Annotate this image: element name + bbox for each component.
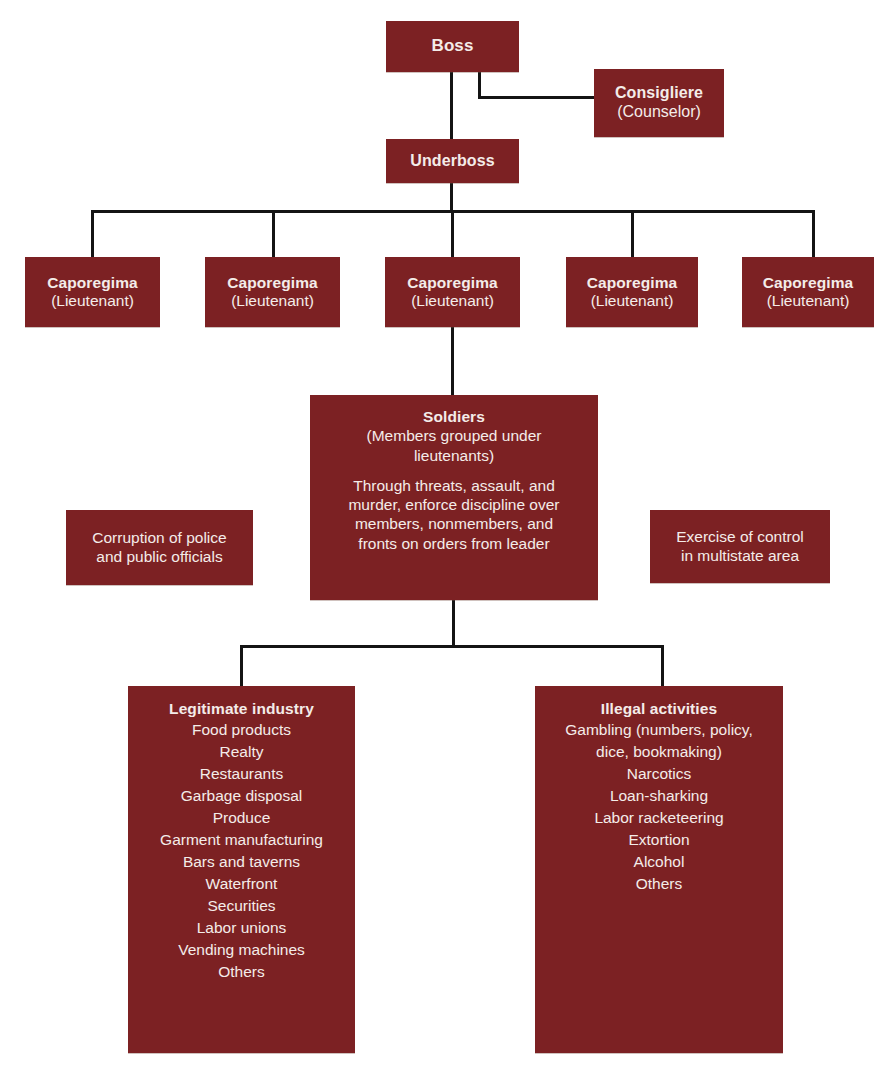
- list-item: Vending machines: [178, 939, 305, 961]
- node-consigliere[interactable]: Consigliere (Counselor): [594, 69, 724, 137]
- list-item: Food products: [192, 719, 291, 741]
- node-consigliere-subtitle: (Counselor): [617, 103, 701, 122]
- connector-drop-caporegima-3: [451, 210, 454, 259]
- connector-underboss-bus: [450, 183, 453, 212]
- node-caporegima-3[interactable]: Caporegima (Lieutenant): [385, 257, 520, 327]
- connector-bottom-bus: [240, 645, 664, 648]
- list-item: Garment manufacturing: [160, 829, 323, 851]
- node-boss-title: Boss: [432, 36, 474, 56]
- node-caporegima-1-subtitle: (Lieutenant): [51, 292, 134, 310]
- node-caporegima-5[interactable]: Caporegima (Lieutenant): [742, 257, 874, 327]
- node-soldiers-subtitle-line-2: lieutenants): [414, 447, 494, 465]
- list-item: Garbage disposal: [181, 785, 303, 807]
- list-item: Gambling (numbers, policy,: [565, 719, 753, 741]
- list-item: Alcohol: [634, 851, 685, 873]
- node-illegal-activities[interactable]: Illegal activities Gambling (numbers, po…: [535, 686, 783, 1053]
- node-caporegima-1[interactable]: Caporegima (Lieutenant): [25, 257, 160, 327]
- node-caporegima-4-title: Caporegima: [587, 274, 678, 292]
- node-corruption-note[interactable]: Corruption of police and public official…: [66, 510, 253, 585]
- node-corruption-note-line-1: Corruption of police: [92, 529, 226, 547]
- list-item: Others: [636, 873, 683, 895]
- connector-boss-underboss: [450, 72, 453, 142]
- list-item: Bars and taverns: [183, 851, 300, 873]
- connector-boss-consigliere-stub: [478, 72, 481, 98]
- node-caporegima-3-subtitle: (Lieutenant): [411, 292, 494, 310]
- connector-drop-caporegima-2: [272, 210, 275, 259]
- list-item: Restaurants: [200, 763, 284, 785]
- connector-boss-consigliere: [478, 96, 596, 99]
- node-caporegima-4-subtitle: (Lieutenant): [591, 292, 674, 310]
- organizational-chart: Boss Consigliere (Counselor) Underboss C…: [0, 0, 888, 1083]
- node-illegal-activities-title: Illegal activities: [601, 700, 717, 718]
- node-caporegima-5-title: Caporegima: [763, 274, 854, 292]
- connector-drop-caporegima-1: [91, 210, 94, 259]
- node-soldiers-paragraph-line-1: Through threats, assault, and: [353, 477, 555, 495]
- list-item: Realty: [220, 741, 264, 763]
- list-item: Waterfront: [206, 873, 278, 895]
- node-control-note-line-2: in multistate area: [681, 547, 799, 565]
- list-item: Securities: [207, 895, 275, 917]
- node-soldiers-paragraph-line-2: murder, enforce discipline over: [348, 496, 559, 514]
- node-legitimate-industry-title: Legitimate industry: [169, 700, 314, 718]
- connector-drop-legitimate: [240, 645, 243, 688]
- list-item: Produce: [213, 807, 271, 829]
- list-item: Extortion: [628, 829, 689, 851]
- list-item: Loan-sharking: [610, 785, 708, 807]
- node-caporegima-3-title: Caporegima: [407, 274, 498, 292]
- connector-drop-illegal: [661, 645, 664, 688]
- node-caporegima-4[interactable]: Caporegima (Lieutenant): [566, 257, 698, 327]
- node-caporegima-2-title: Caporegima: [227, 274, 318, 292]
- node-underboss-title: Underboss: [410, 152, 494, 171]
- node-corruption-note-line-2: and public officials: [96, 548, 222, 566]
- node-caporegima-5-subtitle: (Lieutenant): [767, 292, 850, 310]
- node-control-note-line-1: Exercise of control: [676, 528, 804, 546]
- node-caporegima-2-subtitle: (Lieutenant): [231, 292, 314, 310]
- connector-soldiers-bus: [452, 600, 455, 648]
- list-item: Labor racketeering: [594, 807, 723, 829]
- list-item: Narcotics: [627, 763, 692, 785]
- connector-drop-caporegima-4: [631, 210, 634, 259]
- connector-caporegima-soldiers: [451, 327, 454, 397]
- list-item: Labor unions: [197, 917, 287, 939]
- node-soldiers-subtitle-line-1: (Members grouped under: [367, 427, 542, 445]
- node-caporegima-1-title: Caporegima: [47, 274, 138, 292]
- node-soldiers[interactable]: Soldiers (Members grouped under lieutena…: [310, 395, 598, 600]
- node-soldiers-paragraph-line-4: fronts on orders from leader: [358, 535, 549, 553]
- node-soldiers-paragraph-line-3: members, nonmembers, and: [355, 515, 553, 533]
- node-boss[interactable]: Boss: [386, 21, 519, 72]
- node-underboss[interactable]: Underboss: [386, 139, 519, 183]
- node-legitimate-industry[interactable]: Legitimate industry Food products Realty…: [128, 686, 355, 1053]
- node-caporegima-2[interactable]: Caporegima (Lieutenant): [205, 257, 340, 327]
- node-soldiers-title: Soldiers: [423, 408, 485, 426]
- connector-drop-caporegima-5: [812, 210, 815, 259]
- node-control-note[interactable]: Exercise of control in multistate area: [650, 510, 830, 583]
- node-consigliere-title: Consigliere: [615, 84, 703, 103]
- list-item: Others: [218, 961, 265, 983]
- top-caption: [18, 0, 838, 8]
- list-item: dice, bookmaking): [596, 741, 722, 763]
